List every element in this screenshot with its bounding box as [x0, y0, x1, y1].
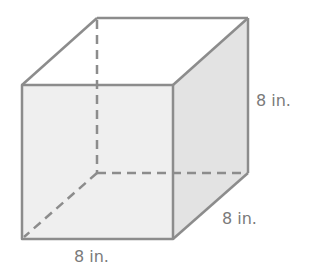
width-label: 8 in.: [74, 247, 109, 266]
cube-diagram: 8 in. 8 in. 8 in.: [0, 0, 319, 277]
depth-label: 8 in.: [222, 209, 257, 228]
height-label: 8 in.: [256, 91, 291, 110]
